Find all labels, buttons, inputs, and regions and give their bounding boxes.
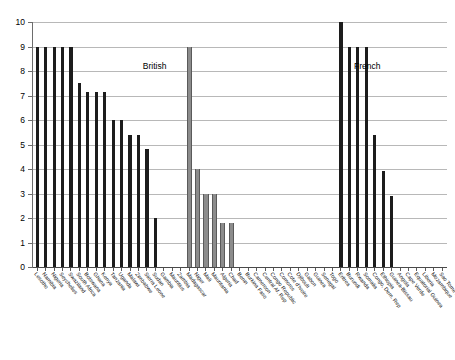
bar-slot: [421, 22, 429, 267]
bar: [128, 135, 131, 267]
bar-slot: [379, 22, 387, 267]
bar: [86, 92, 89, 267]
y-axis-tick-label: 7: [20, 91, 25, 100]
bar-slot: [58, 22, 66, 267]
bar-slot: [269, 22, 277, 267]
bar-slot: [286, 22, 294, 267]
y-axis-tick-mark: [28, 71, 32, 72]
y-axis-tick-label: 4: [20, 165, 25, 174]
bar: [103, 92, 106, 267]
bar-slot: [320, 22, 328, 267]
group-annotation-british: British: [143, 61, 167, 71]
y-axis-tick-label: 0: [20, 263, 25, 272]
bar: [390, 196, 393, 267]
y-axis-tick-mark: [28, 120, 32, 121]
x-axis-category-labels: LesothoNamibiaNigeriaSeychellesSwaziland…: [33, 271, 447, 359]
y-axis-labels: 012345678910: [0, 22, 29, 267]
bar: [44, 47, 47, 268]
bar-slot: [75, 22, 83, 267]
bar-slot: [202, 22, 210, 267]
bar-series: [33, 22, 447, 267]
y-axis-tick-mark: [28, 267, 32, 268]
bar-slot: [244, 22, 252, 267]
bar-slot: [109, 22, 117, 267]
bar: [69, 47, 72, 268]
bar-slot: [328, 22, 336, 267]
bar-slot: [101, 22, 109, 267]
y-axis-tick-label: 8: [20, 67, 25, 76]
bar-slot: [143, 22, 151, 267]
y-axis-tick-label: 2: [20, 214, 25, 223]
bar: [203, 194, 208, 268]
y-axis-tick-mark: [28, 96, 32, 97]
bar: [339, 22, 342, 267]
bar-slot: [430, 22, 438, 267]
bar-slot: [193, 22, 201, 267]
y-axis-tick-mark: [28, 243, 32, 244]
bar-slot: [176, 22, 184, 267]
bar: [356, 47, 359, 268]
bar-slot: [134, 22, 142, 267]
bar-slot: [117, 22, 125, 267]
bar-slot: [278, 22, 286, 267]
bar-slot: [337, 22, 345, 267]
bar: [36, 47, 39, 268]
bar: [348, 47, 351, 268]
y-axis-tick-label: 5: [20, 140, 25, 149]
bar: [220, 223, 225, 267]
bar: [53, 47, 56, 268]
y-axis-tick-label: 1: [20, 238, 25, 247]
plot-area: [33, 22, 447, 267]
bar: [382, 171, 385, 267]
y-axis-tick-mark: [28, 47, 32, 48]
y-axis-tick-mark: [28, 22, 32, 23]
bar-slot: [387, 22, 395, 267]
bar-slot: [354, 22, 362, 267]
bar-slot: [67, 22, 75, 267]
bar-slot: [33, 22, 41, 267]
bar-slot: [92, 22, 100, 267]
bar: [78, 83, 81, 267]
bar-slot: [210, 22, 218, 267]
y-axis-tick-mark: [28, 145, 32, 146]
bar: [195, 169, 200, 267]
bar-slot: [311, 22, 319, 267]
bar-slot: [413, 22, 421, 267]
bar: [112, 120, 115, 267]
bar-slot: [345, 22, 353, 267]
bar-slot: [84, 22, 92, 267]
bar-chart: 012345678910 LesothoNamibiaNigeriaSeyche…: [0, 0, 455, 360]
bar-slot: [151, 22, 159, 267]
bar-slot: [236, 22, 244, 267]
bar-slot: [227, 22, 235, 267]
bar-slot: [126, 22, 134, 267]
bar-slot: [404, 22, 412, 267]
bar: [373, 135, 376, 267]
y-axis-tick-mark: [28, 169, 32, 170]
bar-slot: [396, 22, 404, 267]
y-axis-tick-label: 6: [20, 116, 25, 125]
bar: [95, 92, 98, 267]
bar: [229, 223, 234, 267]
bar: [187, 47, 192, 268]
y-axis-tick-mark: [28, 194, 32, 195]
bar-slot: [261, 22, 269, 267]
bar: [61, 47, 64, 268]
bar: [212, 194, 217, 268]
bar-slot: [168, 22, 176, 267]
bar: [365, 47, 368, 268]
bar-slot: [50, 22, 58, 267]
bar: [120, 120, 123, 267]
y-axis-tick-label: 3: [20, 189, 25, 198]
bar-slot: [160, 22, 168, 267]
y-axis-tick-mark: [28, 218, 32, 219]
bar-slot: [185, 22, 193, 267]
y-axis-tick-label: 9: [20, 42, 25, 51]
bar-slot: [219, 22, 227, 267]
group-annotation-french: French: [354, 61, 380, 71]
bar-slot: [438, 22, 446, 267]
bar-slot: [41, 22, 49, 267]
bar-slot: [303, 22, 311, 267]
bar: [137, 135, 140, 267]
bar-slot: [252, 22, 260, 267]
